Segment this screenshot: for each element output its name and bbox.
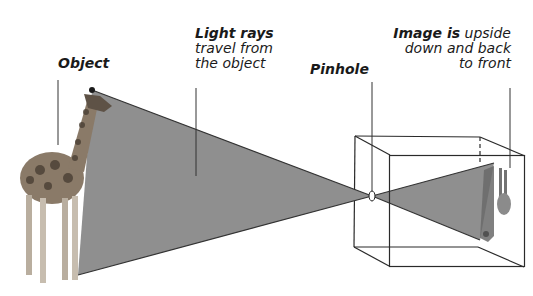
label-pinhole: Pinhole [310,62,369,77]
label-object: Object [58,56,109,71]
label-image-title: Image is [393,25,460,41]
inverted-image [480,166,511,242]
pinhole [369,191,375,201]
label-image-line2: down and back [393,41,511,56]
label-image-line3: to front [393,56,511,71]
label-image-line1-rest: upside [460,25,511,41]
image-ray-cone [372,163,494,240]
label-light-rays: Light rays travel from the object [195,26,274,71]
label-image: Image is upside down and back to front [393,26,511,71]
light-ray-cone [78,90,372,275]
label-light-rays-line2: travel from [195,41,274,56]
label-light-rays-title: Light rays [195,26,274,41]
label-light-rays-line3: the object [195,56,274,71]
